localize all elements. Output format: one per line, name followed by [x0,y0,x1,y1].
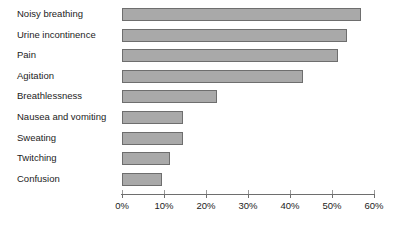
x-axis-tick-upper [332,190,333,194]
bar [122,132,183,145]
x-axis-tick-upper [206,190,207,194]
bar-row [122,8,361,21]
x-axis-tick-label: 20% [196,200,215,211]
category-label: Agitation [17,71,114,81]
bar-row [122,90,217,103]
x-axis-tick-upper [374,190,375,194]
bar [122,90,217,103]
bar [122,111,183,124]
x-axis-tick-label: 30% [238,200,257,211]
x-axis-tick-upper [290,190,291,194]
x-axis-tick-upper [164,190,165,194]
category-label: Twitching [17,153,114,163]
category-axis-labels: Noisy breathingUrine incontinencePainAgi… [0,8,118,194]
x-axis-tick-label: 0% [115,200,129,211]
plot-area [122,8,374,194]
bar-row [122,29,347,42]
x-axis-tick-upper [122,190,123,194]
bar [122,152,170,165]
bar [122,8,361,21]
category-label: Nausea and vomiting [17,112,114,122]
bar-row [122,132,183,145]
x-axis-tick [248,194,249,198]
category-label: Confusion [17,174,114,184]
bar [122,173,162,186]
x-axis-tick-label: 50% [322,200,341,211]
category-label: Breathlessness [17,91,114,101]
x-axis-tick [164,194,165,198]
bar-row [122,111,183,124]
bar [122,29,347,42]
x-axis-tick [332,194,333,198]
x-axis-tick-label: 40% [280,200,299,211]
bar-chart: Noisy breathingUrine incontinencePainAgi… [0,0,397,236]
x-axis-tick [290,194,291,198]
x-axis-tick-label: 10% [154,200,173,211]
category-label: Sweating [17,133,114,143]
bar-row [122,152,170,165]
x-axis-tick [122,194,123,198]
category-label: Pain [17,50,114,60]
bar [122,49,338,62]
bar [122,70,303,83]
bar-row [122,49,338,62]
category-label: Noisy breathing [17,9,114,19]
x-axis-tick [374,194,375,198]
x-axis-tick-label: 60% [364,200,383,211]
x-axis-tick [206,194,207,198]
bar-row [122,70,303,83]
bar-row [122,173,162,186]
category-label: Urine incontinence [17,30,114,40]
x-axis-tick-upper [248,190,249,194]
